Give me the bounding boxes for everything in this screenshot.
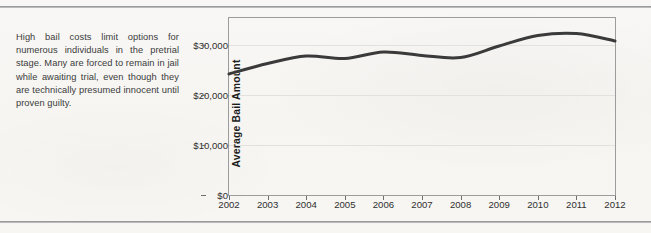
x-tick-label: 2006 xyxy=(373,199,394,210)
x-tick-label: 2005 xyxy=(334,199,355,210)
x-tick-label: 2007 xyxy=(411,199,432,210)
y-tick-label: $20,000 xyxy=(172,90,228,101)
x-tick-label: 2010 xyxy=(527,199,548,210)
x-tick-label: 2003 xyxy=(257,199,278,210)
y-tick-mark xyxy=(201,95,206,96)
average-bail-amount-series xyxy=(228,17,616,196)
series-line-path xyxy=(229,33,615,74)
x-axis-tick-labels: 2002200320042005200620072008200920102011… xyxy=(228,199,616,217)
x-tick-label: 2004 xyxy=(296,199,317,210)
y-tick-mark xyxy=(201,145,206,146)
x-tick-label: 2009 xyxy=(489,199,510,210)
y-tick-label: $30,000 xyxy=(172,40,228,51)
y-tick-mark xyxy=(201,45,206,46)
bottom-horizontal-rule xyxy=(0,221,651,223)
x-tick-label: 2002 xyxy=(218,199,239,210)
top-horizontal-rule xyxy=(0,6,651,8)
y-tick-mark xyxy=(201,195,206,196)
y-tick-label: $10,000 xyxy=(172,140,228,151)
y-axis-tick-labels: $0$10,000$20,000$30,000 xyxy=(164,12,228,217)
caption-text: High bail costs limit options for numero… xyxy=(16,31,179,110)
x-tick-label: 2012 xyxy=(604,199,625,210)
x-tick-label: 2008 xyxy=(450,199,471,210)
bail-amount-line-chart: $0$10,000$20,000$30,000 Average Bail Amo… xyxy=(186,12,638,217)
x-tick-label: 2011 xyxy=(566,199,587,210)
